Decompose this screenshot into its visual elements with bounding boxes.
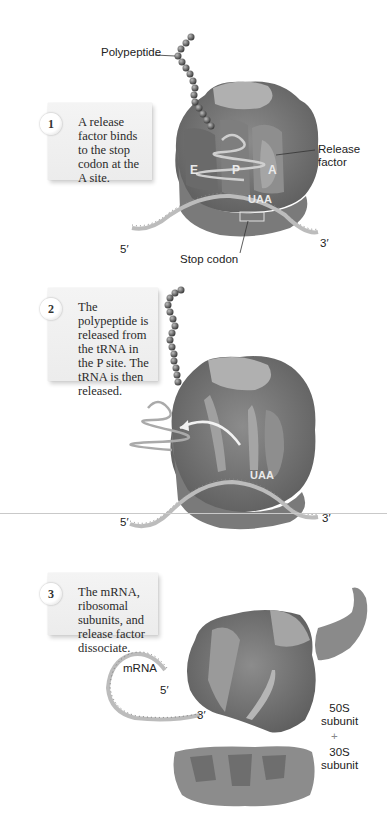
label-polypeptide: Polypeptide bbox=[101, 46, 161, 59]
label-30s-subunit: 30S subunit bbox=[321, 746, 358, 772]
codon-label-2: UAA bbox=[250, 469, 274, 481]
label-mrna: mRNA bbox=[123, 662, 157, 675]
site-a-label: A bbox=[268, 163, 277, 177]
mrna-strand-step2 bbox=[130, 482, 318, 526]
step-3-badge: 3 bbox=[40, 583, 62, 605]
label-plus: + bbox=[331, 730, 338, 743]
released-trna bbox=[131, 402, 189, 450]
label-release-factor: Release factor bbox=[318, 143, 360, 169]
codon-label-1: UAA bbox=[248, 193, 272, 205]
label-50s-subunit: 50S subunit bbox=[321, 702, 358, 728]
step-1-text: A release factor binds to the stop codon… bbox=[78, 115, 144, 185]
ribosome-step2 bbox=[170, 356, 315, 512]
step-3-text: The mRNA, ribosomal subunits, and releas… bbox=[78, 585, 150, 655]
50s-subunit bbox=[187, 610, 316, 733]
step-3-card: 3 The mRNA, ribosomal subunits, and rele… bbox=[48, 573, 158, 635]
label-stop-codon: Stop codon bbox=[180, 253, 238, 266]
label-5-prime-3: 5′ bbox=[160, 684, 169, 697]
step-1-card: 1 A release factor binds to the stop cod… bbox=[48, 103, 152, 180]
step-2-text: The polypeptide is released from the tRN… bbox=[78, 300, 150, 398]
page-divider bbox=[0, 513, 387, 514]
label-3-prime-3: 3′ bbox=[197, 709, 206, 722]
step-2-card: 2 The polypeptide is released from the t… bbox=[48, 288, 158, 381]
label-3-prime-1: 3′ bbox=[320, 237, 329, 250]
label-5-prime-2: 5′ bbox=[120, 516, 129, 529]
label-5-prime-1: 5′ bbox=[120, 243, 129, 256]
released-polypeptide bbox=[165, 287, 185, 386]
30s-subunit bbox=[174, 746, 315, 806]
site-e-label: E bbox=[190, 163, 198, 177]
site-p-label: P bbox=[232, 163, 240, 177]
release-factor-dissociated bbox=[315, 587, 367, 660]
step-1-badge: 1 bbox=[40, 113, 62, 135]
step-2-badge: 2 bbox=[40, 298, 62, 320]
